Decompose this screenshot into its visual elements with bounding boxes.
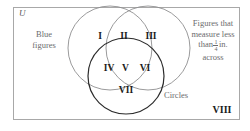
small-figures-label: Figures that measure less than14in. acro… [186,18,240,63]
region-label-viii: VIII [211,105,233,115]
region-label-iv: IV [100,64,118,74]
circles-circle [88,38,164,114]
one-quarter-fraction: 14 [213,39,218,52]
region-label-iii: III [143,32,159,42]
small-figures-label-line3-suffix: in. [219,39,228,49]
small-figures-label-line3-prefix: than [198,39,213,49]
region-label-i: I [93,32,107,42]
venn-diagram-figure: U Blue figures Figures that measure less… [0,0,250,131]
small-figures-label-line2: measure less [191,29,234,39]
region-label-vii: VII [116,86,136,96]
blue-figures-label: Blue figures [23,29,65,50]
small-figures-label-line1: Figures that [193,18,233,28]
fraction-numerator: 1 [213,39,218,46]
blue-figures-label-line2: figures [32,40,56,50]
circles-set-label: Circles [164,90,204,101]
blue-figures-label-line1: Blue [36,29,52,39]
region-label-v: V [119,64,132,74]
small-figures-label-line4: across [202,52,223,62]
blue-figures-circle [68,6,152,90]
small-figures-circle [106,6,190,90]
region-label-ii: II [117,32,131,42]
region-label-vi: VI [136,64,154,74]
fraction-denominator: 4 [213,46,218,52]
